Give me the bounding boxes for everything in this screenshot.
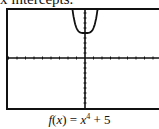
variable: x	[56, 112, 62, 127]
equals: =	[70, 112, 81, 127]
function-caption: f(x) = x4 + 5	[0, 112, 159, 128]
function-name: f	[48, 112, 52, 127]
function-plot	[0, 0, 159, 129]
constant-term: + 5	[90, 112, 110, 127]
